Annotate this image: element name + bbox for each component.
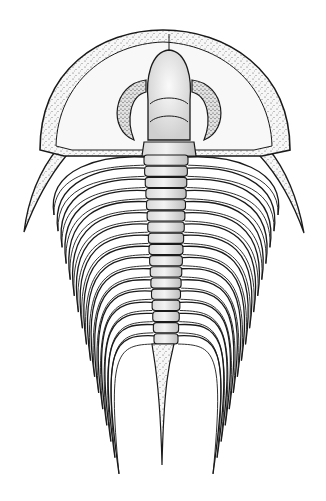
trilobite-illustration: Trilobite illustration [0, 0, 326, 501]
trilobite-drawing [0, 0, 326, 501]
tail-spine [152, 344, 174, 465]
cephalon [40, 30, 290, 156]
axial-rings [144, 155, 188, 344]
